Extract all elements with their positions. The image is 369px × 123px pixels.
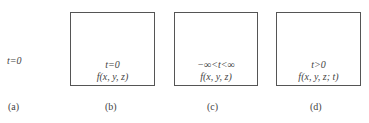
panel-a-condition: t=0	[7, 55, 22, 66]
panel-a-label: (a)	[8, 101, 19, 112]
panel-b-box: t=0 f(x, y, z)	[70, 12, 155, 86]
panel-c-function: f(x, y, z)	[175, 71, 257, 83]
panel-b-condition: t=0	[71, 59, 154, 71]
panel-b-label: (b)	[105, 101, 117, 112]
panel-b-function: f(x, y, z)	[71, 71, 154, 83]
panel-c-label: (c)	[207, 101, 218, 112]
panel-d-condition: t>0	[277, 59, 360, 71]
panel-d-box: t>0 f(x, y, z; t)	[276, 12, 361, 86]
panel-c-condition: −∞<t<∞	[175, 59, 257, 71]
panel-d-function: f(x, y, z; t)	[277, 71, 360, 83]
panel-c-box: −∞<t<∞ f(x, y, z)	[174, 12, 258, 86]
panel-d-label: (d)	[310, 101, 322, 112]
